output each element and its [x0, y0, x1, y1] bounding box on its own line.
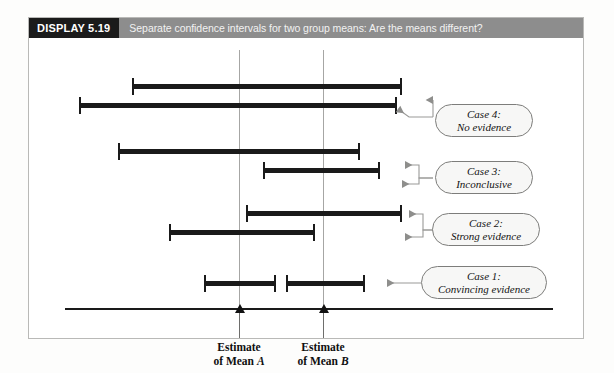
tick-arrowhead-mean-a: [235, 304, 245, 313]
callout-case-3-verdict: Inconclusive: [456, 178, 512, 191]
case-3-interval-a-bar: [118, 149, 359, 154]
case-4-interval-b-bar: [79, 103, 396, 108]
display-title: Separate confidence intervals for two gr…: [119, 18, 583, 38]
tick-arrowhead-mean-b: [319, 304, 329, 313]
case-1-interval-b-bar: [286, 281, 364, 286]
case-2-interval-b-right-cap: [313, 224, 315, 241]
case-1-interval-a-right-cap: [274, 275, 276, 292]
callout-case-4-title: Case 4:: [467, 108, 501, 121]
case-3-interval-a-right-cap: [358, 143, 360, 160]
callout-case-1[interactable]: Case 1: Convincing evidence: [421, 266, 547, 299]
callout-case-3-title: Case 3:: [467, 165, 501, 178]
tick-stem-mean-b: [323, 310, 324, 338]
callout-case-2[interactable]: Case 2: Strong evidence: [432, 213, 540, 246]
display-panel: DISPLAY 5.19 Separate confidence interva…: [28, 17, 584, 339]
callout-case-2-verdict: Strong evidence: [451, 230, 521, 243]
case-3-interval-b-right-cap: [378, 162, 380, 179]
case-2-interval-a-right-cap: [400, 205, 402, 222]
case-2-interval-a-bar: [246, 211, 402, 216]
axis-label-mean-b-line1: Estimate: [273, 340, 373, 354]
display-header: DISPLAY 5.19 Separate confidence interva…: [29, 18, 583, 38]
callout-case-4-verdict: No evidence: [457, 121, 511, 134]
callout-case-3[interactable]: Case 3: Inconclusive: [435, 161, 533, 194]
axis-label-mean-b: Estimate of Mean B: [273, 340, 373, 368]
callout-case-2-title: Case 2:: [469, 217, 503, 230]
case-1-interval-a-bar: [204, 281, 275, 286]
callout-case-4[interactable]: Case 4: No evidence: [435, 104, 533, 137]
scanned-page-background: DISPLAY 5.19 Separate confidence interva…: [0, 0, 614, 373]
tick-stem-mean-a: [239, 310, 240, 338]
baseline-axis: [65, 308, 553, 310]
case-3-interval-b-bar: [263, 168, 379, 173]
case-4-interval-a-bar: [132, 84, 402, 89]
case-1-interval-b-right-cap: [363, 275, 365, 292]
callout-case-1-title: Case 1:: [467, 270, 501, 283]
axis-label-mean-b-line2: of Mean B: [273, 354, 373, 368]
plot-area: Case 4: No evidence Case 3: Inconclusive…: [29, 38, 585, 339]
callout-case-1-verdict: Convincing evidence: [438, 283, 530, 296]
display-number-badge: DISPLAY 5.19: [29, 18, 119, 38]
case-2-interval-b-bar: [169, 230, 314, 235]
case-4-interval-a-right-cap: [400, 78, 402, 95]
case-4-interval-b-right-cap: [395, 97, 397, 114]
